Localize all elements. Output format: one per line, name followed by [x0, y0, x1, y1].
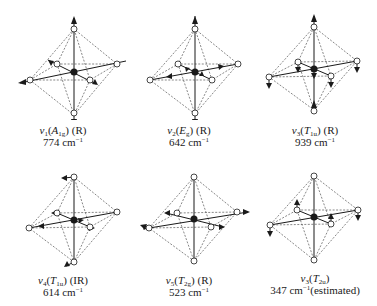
mode-panel-v4: ν4(T1u) (IR) 614 cm−1 — [0, 153, 126, 306]
mode-label-v3: ν3(T1u) (R) 939 cm−1 — [252, 124, 377, 148]
mode-label-v1: ν1(A1g) (R) 774 cm−1 — [0, 124, 126, 148]
mode-panel-v5: ν5(T2g) (R) 523 cm−1 — [126, 153, 252, 306]
mode-label-v2: ν2(Eg) (R) 642 cm−1 — [126, 124, 252, 148]
mode-panel-v3: ν3(T1u) (R) 939 cm−1 — [252, 0, 377, 153]
octahedron-v6-diagram — [252, 153, 377, 273]
mode-panel-v2: ν2(Eg) (R) 642 cm−1 — [126, 0, 252, 153]
octahedron-v3-diagram — [252, 0, 377, 120]
octahedron-v2-diagram — [126, 0, 252, 120]
mode-panel-v1: ν1(A1g) (R) 774 cm−1 — [0, 0, 126, 153]
mode-label-v6: ν3(T2u) 347 cm−1(estimated) — [252, 272, 377, 296]
octahedron-v1-diagram — [0, 0, 126, 120]
mode-panel-v6: ν3(T2u) 347 cm−1(estimated) — [252, 153, 377, 306]
octahedron-v5-diagram — [126, 153, 252, 273]
mode-label-v4: ν4(T1u) (IR) 614 cm−1 — [0, 274, 126, 298]
octahedron-v4-diagram — [0, 153, 126, 273]
mode-label-v5: ν5(T2g) (R) 523 cm−1 — [126, 274, 252, 298]
